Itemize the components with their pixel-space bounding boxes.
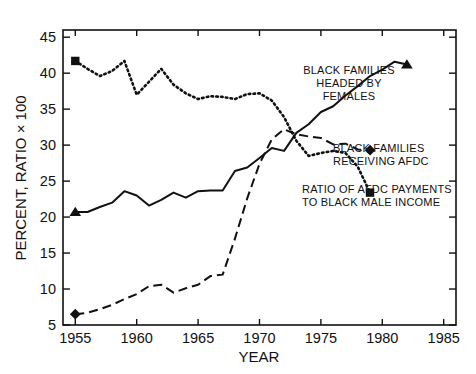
annotation-a2-line-1: RECEIVING AFDC (333, 155, 429, 167)
y-tick-label: 5 (48, 317, 56, 333)
x-tick-label: 1980 (366, 330, 398, 346)
chart-figure: 1955196019651970197519801985 51015202530… (0, 0, 476, 374)
x-tick-label: 1955 (59, 330, 91, 346)
y-tick-label: 20 (40, 209, 56, 225)
y-tick-label: 25 (40, 173, 56, 189)
marker-square (71, 57, 79, 65)
line-chart-canvas: 1955196019651970197519801985 51015202530… (0, 0, 476, 374)
x-tick-label: 1975 (305, 330, 337, 346)
x-tick-label: 1970 (243, 330, 275, 346)
annotation-a1-line-0: BLACK FAMILIES (303, 64, 394, 76)
y-tick-label: 45 (40, 29, 56, 45)
x-tick-label: 1960 (121, 330, 153, 346)
x-axis-title: YEAR (239, 348, 280, 365)
y-tick-labels: 51015202530354045 (40, 29, 56, 333)
annotation-a3-line-0: RATIO OF AFDC PAYMENTS (302, 183, 452, 195)
y-tick-label: 40 (40, 65, 56, 81)
annotation-a3-line-1: TO BLACK MALE INCOME (302, 196, 440, 208)
y-tick-label: 10 (40, 281, 56, 297)
y-tick-label: 30 (40, 137, 56, 153)
y-axis-title: PERCENT, RATIO × 100 (12, 95, 29, 260)
annotation-a1-line-2: FEMALES (323, 90, 376, 102)
annotation-a2-line-0: BLACK FAMILIES (333, 142, 424, 154)
y-tick-label: 15 (40, 245, 56, 261)
annotation-a1-line-1: HEADED BY (316, 77, 382, 89)
y-tick-label: 35 (40, 101, 56, 117)
x-tick-label: 1985 (428, 330, 460, 346)
x-tick-label: 1965 (182, 330, 214, 346)
